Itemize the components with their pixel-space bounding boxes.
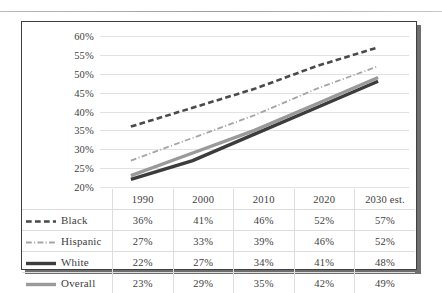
legend-swatch-icon [26,217,56,226]
series-line-hispanic [131,66,378,160]
table-body: 19902000201020202030 est.Black36%41%46%5… [22,189,415,293]
y-axis-tick-label: 45% [74,87,94,98]
data-cell: 27% [113,231,174,252]
data-cell: 46% [294,231,355,252]
legend-item-hispanic: Hispanic [22,231,113,252]
legend-swatch-icon [26,238,56,247]
legend-item-overall: Overall [22,273,113,293]
data-cell: 22% [113,252,174,273]
data-cell: 48% [355,252,416,273]
column-header: 2000 [173,189,234,210]
y-axis-tick-label: 25% [74,163,94,174]
table-row: Black36%41%46%52%57% [22,210,415,231]
plot-area: 60%55%50%45%40%35%30%25%20% [22,22,415,190]
y-axis-tick-label: 55% [74,49,94,60]
table-row: Hispanic27%33%39%46%52% [22,231,415,252]
y-axis-tick-label: 60% [74,31,94,42]
data-cell: 42% [294,273,355,293]
data-cell: 39% [234,231,295,252]
chart-frame: 60%55%50%45%40%35%30%25%20% 199020002010… [21,21,417,270]
legend-item-black: Black [22,210,113,231]
legend-label: Hispanic [61,235,102,247]
y-axis-tick-label: 50% [74,68,94,79]
top-horizontal-rule [0,11,442,12]
data-cell: 52% [355,231,416,252]
column-header: 1990 [113,189,174,210]
column-header: 2010 [234,189,295,210]
data-cell: 34% [234,252,295,273]
data-cell: 35% [234,273,295,293]
column-header: 2030 est. [355,189,416,210]
table-row: White22%27%34%41%48% [22,252,415,273]
data-cell: 27% [173,252,234,273]
data-cell: 46% [234,210,295,231]
data-cell: 41% [173,210,234,231]
series-lines [100,22,409,190]
series-line-overall [131,78,378,176]
table-row: Overall23%29%35%42%49% [22,273,415,293]
data-cell: 49% [355,273,416,293]
data-table: 19902000201020202030 est.Black36%41%46%5… [22,189,415,293]
table-header-row: 19902000201020202030 est. [22,189,415,210]
y-axis-tick-label: 40% [74,106,94,117]
y-axis-tick-label: 35% [74,125,94,136]
legend-item-white: White [22,252,113,273]
data-cell: 41% [294,252,355,273]
y-axis-labels: 60%55%50%45%40%35%30%25%20% [22,22,100,190]
y-axis-tick-label: 30% [74,144,94,155]
table-corner-cell [22,189,113,210]
data-cell: 29% [173,273,234,293]
legend-label: Black [61,214,88,226]
data-cell: 36% [113,210,174,231]
data-cell: 52% [294,210,355,231]
legend-swatch-icon [26,280,56,289]
data-cell: 57% [355,210,416,231]
data-cell: 23% [113,273,174,293]
legend-swatch-icon [26,259,56,268]
data-cell: 33% [173,231,234,252]
column-header: 2020 [294,189,355,210]
legend-label: Overall [61,277,95,289]
legend-label: White [61,256,89,268]
